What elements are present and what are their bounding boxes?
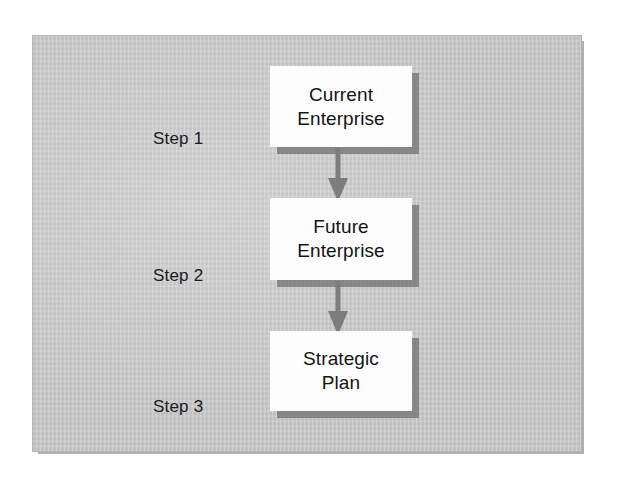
node-current-enterprise-line-2: Enterprise (297, 107, 385, 131)
figure-canvas: Step 1 Current Enterprise Step 2 Future … (0, 0, 619, 485)
figure-panel: Step 1 Current Enterprise Step 2 Future … (32, 35, 582, 452)
node-future-enterprise-line-2: Enterprise (297, 239, 385, 263)
node-current-enterprise-line-1: Current (297, 83, 385, 107)
node-future-enterprise[interactable]: Future Enterprise (270, 198, 412, 280)
step-label-1: Step 1 (153, 130, 203, 147)
node-strategic-plan[interactable]: Strategic Plan (270, 331, 412, 411)
step-label-3: Step 3 (153, 398, 203, 415)
node-future-enterprise-text: Future Enterprise (297, 215, 385, 263)
node-strategic-plan-line-1: Strategic (303, 347, 379, 371)
node-strategic-plan-line-2: Plan (303, 371, 379, 395)
step-label-2: Step 2 (153, 267, 203, 284)
node-future-enterprise-line-1: Future (297, 215, 385, 239)
node-current-enterprise-text: Current Enterprise (297, 83, 385, 131)
node-strategic-plan-text: Strategic Plan (303, 347, 379, 395)
node-current-enterprise[interactable]: Current Enterprise (270, 66, 412, 147)
